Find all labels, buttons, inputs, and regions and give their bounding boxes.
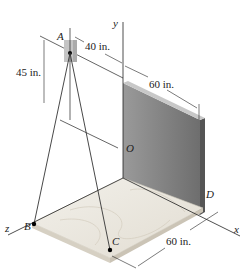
dim-40: 40 in. [85, 40, 110, 52]
label-z-axis: z [4, 222, 10, 234]
support-block-a [64, 40, 77, 62]
dim-60-top: 60 in. [149, 78, 174, 90]
label-d: D [205, 188, 214, 200]
label-c: C [112, 235, 120, 247]
cable-ab [34, 53, 70, 224]
label-a: A [56, 30, 64, 42]
dim-60-bottom: 60 in. [166, 235, 191, 247]
label-y-axis: y [112, 17, 118, 29]
label-o: O [126, 142, 134, 154]
dim-45: 45 in. [16, 66, 41, 78]
label-b: B [24, 220, 31, 232]
statics-figure: A B C D O y x z 40 in. 45 in. 60 in. 60 … [0, 0, 246, 273]
diagram-svg: A B C D O y x z 40 in. 45 in. 60 in. 60 … [0, 0, 246, 273]
label-x-axis: x [233, 223, 239, 235]
